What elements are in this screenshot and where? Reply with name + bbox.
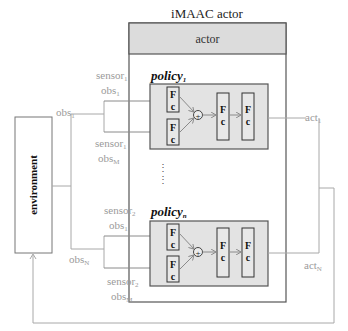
ellipsis-bottom: ⋮ [158, 174, 168, 185]
fc-label-c: c [246, 252, 251, 263]
fc-label-f: F [245, 104, 251, 115]
input-1-obs-label: obs1 [101, 84, 120, 98]
fc-label-f: F [170, 259, 176, 270]
fc-label-c: c [171, 101, 176, 112]
fc-label-f: F [170, 122, 176, 133]
policy-1-label: policy1 [150, 68, 186, 84]
environment-label: environment [27, 155, 39, 215]
input-3-sensor-label: sensor2 [104, 204, 136, 218]
input-3-obs-label: obs1 [109, 219, 128, 233]
policy-n-label: policyn [150, 204, 187, 220]
fc-label-c: c [171, 239, 176, 250]
fc-label-c: c [221, 116, 226, 127]
fc-label-f: F [170, 227, 176, 238]
fc-label-f: F [220, 104, 226, 115]
fc-label-f: F [245, 240, 251, 251]
obs-1-agent-label: obs1 [56, 106, 75, 120]
input-4-sensor-label: sensor2 [107, 275, 139, 289]
fc-label-c: c [171, 134, 176, 145]
fc-label-c: c [246, 116, 251, 127]
diagram-title: iMAAC actor [171, 6, 244, 21]
ellipsis-top: ⋮ [158, 162, 168, 173]
plus-icon: + [195, 111, 200, 121]
fc-label-c: c [171, 271, 176, 282]
fc-label-f: F [220, 240, 226, 251]
obs-n-agent-label: obsN [69, 253, 89, 267]
act-n-label: actN [304, 259, 322, 273]
input-1-sensor-label: sensor1 [96, 69, 128, 83]
fc-label-f: F [170, 89, 176, 100]
plus-icon: + [195, 248, 200, 258]
imaac-actor-diagram: iMAAC actor actor environment obs1 senso… [0, 0, 348, 331]
input-2-obs-label: obsM [98, 152, 120, 166]
fc-label-c: c [221, 252, 226, 263]
actor-header-label: actor [196, 32, 220, 46]
input-2-sensor-label: sensor1 [95, 137, 127, 151]
